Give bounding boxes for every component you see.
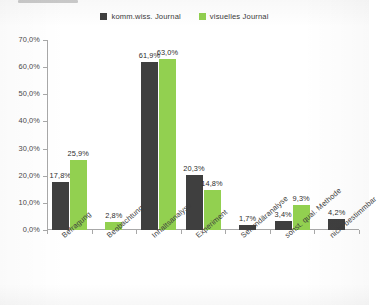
y-axis-tick-label: 70,0% xyxy=(19,35,40,44)
plot-area: 0,0%10,0%20,0%30,0%40,0%50,0%60,0%70,0% … xyxy=(47,40,359,230)
y-axis-tick-label: 20,0% xyxy=(19,171,40,180)
bar-value-label: 9,3% xyxy=(287,194,316,203)
bar-komm-wiss xyxy=(141,62,158,230)
chart-legend: komm.wiss. Journal visuelles Journal xyxy=(0,12,369,21)
bar-visuelles xyxy=(159,59,176,230)
y-axis-tick-label: 60,0% xyxy=(19,62,40,71)
legend-swatch-komm-wiss xyxy=(100,13,107,20)
bars-layer: 17,8%25,9%2,8%61,9%63,0%20,3%14,8%1,7%3,… xyxy=(47,40,359,230)
cropped-header-artifact xyxy=(10,0,210,5)
x-axis-tick xyxy=(359,230,360,234)
y-axis-tick-label: 40,0% xyxy=(19,116,40,125)
legend-entry-komm-wiss: komm.wiss. Journal xyxy=(100,12,180,21)
legend-swatch-visuelles xyxy=(199,13,206,20)
x-axis-category-labels: BefragungBeobachtungInhaltsanalyseExperi… xyxy=(47,231,359,305)
bar-value-label: 25,9% xyxy=(64,149,93,158)
y-axis-tick-label: 0,0% xyxy=(23,225,40,234)
legend-label-komm-wiss: komm.wiss. Journal xyxy=(111,12,180,21)
bar-komm-wiss xyxy=(52,182,69,230)
y-axis-tick-label: 50,0% xyxy=(19,89,40,98)
bar-value-label: 63,0% xyxy=(153,48,182,57)
bar-value-label: 20,3% xyxy=(180,164,209,173)
y-axis-tick-label: 30,0% xyxy=(19,144,40,153)
cropped-text-line xyxy=(18,0,78,3)
legend-label-visuelles: visuelles Journal xyxy=(210,12,269,21)
y-axis-tick-label: 10,0% xyxy=(19,198,40,207)
legend-entry-visuelles: visuelles Journal xyxy=(199,12,269,21)
bar-value-label: 14,8% xyxy=(198,179,227,188)
